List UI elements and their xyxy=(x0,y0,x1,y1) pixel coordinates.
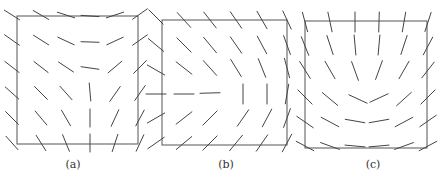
orientation-segment xyxy=(35,87,48,100)
orientation-segment xyxy=(203,136,217,150)
orientation-segment xyxy=(4,10,19,20)
caption-b: (b) xyxy=(218,158,234,171)
orientation-segment xyxy=(321,117,339,126)
orientation-segment xyxy=(395,117,413,126)
orientation-segment xyxy=(401,36,407,55)
panel-b xyxy=(146,10,292,152)
orientation-segment xyxy=(231,60,242,77)
orientation-segment xyxy=(135,86,145,101)
panel-a xyxy=(4,9,147,152)
orientation-segment xyxy=(204,37,217,52)
orientation-segment xyxy=(425,13,431,32)
orientation-segment xyxy=(379,12,380,32)
orientation-segment xyxy=(230,135,243,150)
orientation-segment xyxy=(256,135,267,151)
orientation-segment xyxy=(58,37,74,45)
orientation-segment xyxy=(369,145,389,147)
orientation-segment xyxy=(177,38,191,52)
orientation-segment xyxy=(349,95,367,103)
orientation-segment xyxy=(6,112,19,125)
orientation-segment xyxy=(107,37,123,45)
orientation-segment xyxy=(203,111,217,125)
orientation-segment xyxy=(108,61,122,73)
orientation-segment xyxy=(322,93,337,106)
orientation-segment xyxy=(419,141,437,150)
orientation-segment xyxy=(111,110,119,126)
orientation-segment xyxy=(423,37,432,55)
orientation-segment xyxy=(328,12,332,32)
orientation-segment xyxy=(369,119,389,122)
orientation-segment xyxy=(176,62,192,74)
orientation-segment xyxy=(327,36,333,55)
orientation-segment xyxy=(354,35,356,55)
orientation-segment xyxy=(133,35,148,45)
orientation-segment xyxy=(258,59,265,78)
orientation-segment xyxy=(33,35,48,45)
orientation-segment xyxy=(59,62,74,72)
orientation-segment xyxy=(133,9,148,19)
orientation-segment xyxy=(399,61,409,78)
orientation-segment xyxy=(112,134,118,151)
orientation-segment xyxy=(397,92,412,105)
panel-c xyxy=(296,12,437,151)
orientation-segment xyxy=(81,42,99,43)
orientation-segment xyxy=(110,87,120,102)
orientation-segment xyxy=(35,111,47,125)
orientation-segment xyxy=(136,110,144,126)
orientation-segment xyxy=(345,145,365,147)
orientation-segment xyxy=(203,61,216,76)
orientation-segment xyxy=(176,112,192,124)
orientation-segment xyxy=(370,94,388,102)
orientation-segment xyxy=(62,110,71,126)
orientation-segment xyxy=(81,67,99,70)
orientation-segment xyxy=(134,61,147,74)
orientation-segment xyxy=(36,135,46,150)
orientation-segment xyxy=(176,137,191,150)
orientation-segment xyxy=(136,135,144,151)
orientation-segment xyxy=(325,61,335,78)
panel-frame xyxy=(162,20,287,145)
orientation-segment xyxy=(89,83,91,101)
orientation-segment xyxy=(352,62,359,81)
orientation-segment xyxy=(376,61,383,80)
orientation-segment xyxy=(149,10,163,24)
orientation-segment xyxy=(106,12,123,18)
orientation-segment xyxy=(57,12,74,18)
orientation-segment xyxy=(421,90,435,104)
orientation-segment xyxy=(148,39,163,52)
orientation-segment xyxy=(60,86,72,99)
orientation-segment xyxy=(33,11,49,20)
orientation-field-figure xyxy=(0,0,443,179)
orientation-segment xyxy=(6,136,18,149)
orientation-segment xyxy=(237,110,248,126)
orientation-segment xyxy=(378,35,380,55)
panel-frame xyxy=(17,16,138,144)
orientation-segment xyxy=(422,62,434,78)
orientation-segment xyxy=(262,109,271,127)
panel-frame xyxy=(305,21,427,148)
orientation-segment xyxy=(257,36,266,54)
orientation-segment xyxy=(420,115,436,126)
orientation-segment xyxy=(402,12,405,32)
caption-c: (c) xyxy=(366,158,381,171)
orientation-segment xyxy=(200,93,220,94)
orientation-segment xyxy=(230,37,241,53)
orientation-segment xyxy=(63,135,70,152)
orientation-segment xyxy=(34,62,48,73)
orientation-segment xyxy=(345,119,365,122)
caption-a: (a) xyxy=(65,158,80,171)
